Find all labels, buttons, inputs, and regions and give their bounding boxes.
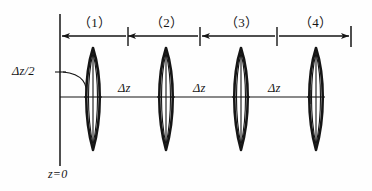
gap-label-1: Δz [118,82,131,95]
segment-label-4: （4） [299,16,332,29]
lens-4 [307,48,325,150]
segment-label-2: （2） [150,16,183,29]
lens-2 [157,48,175,150]
half-step-label: Δz/2 [12,65,35,78]
origin-label: z=0 [48,168,67,180]
gap-label-3: Δz [268,82,281,95]
lens-1 [84,48,102,150]
lens-3 [232,48,250,150]
gap-label-2: Δz [193,82,206,95]
segment-label-1: （1） [78,16,111,29]
segment-label-3: （3） [225,16,258,29]
lens-array-figure: （1） （2） （3） （4） Δz Δz Δz Δz/2 z=0 [0,0,372,191]
